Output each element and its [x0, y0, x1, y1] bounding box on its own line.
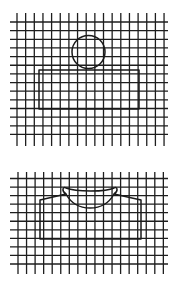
grid-bottom — [10, 172, 168, 274]
figure-canvas — [0, 0, 180, 294]
grid-top — [10, 13, 168, 146]
rectangle-shape — [39, 70, 139, 109]
